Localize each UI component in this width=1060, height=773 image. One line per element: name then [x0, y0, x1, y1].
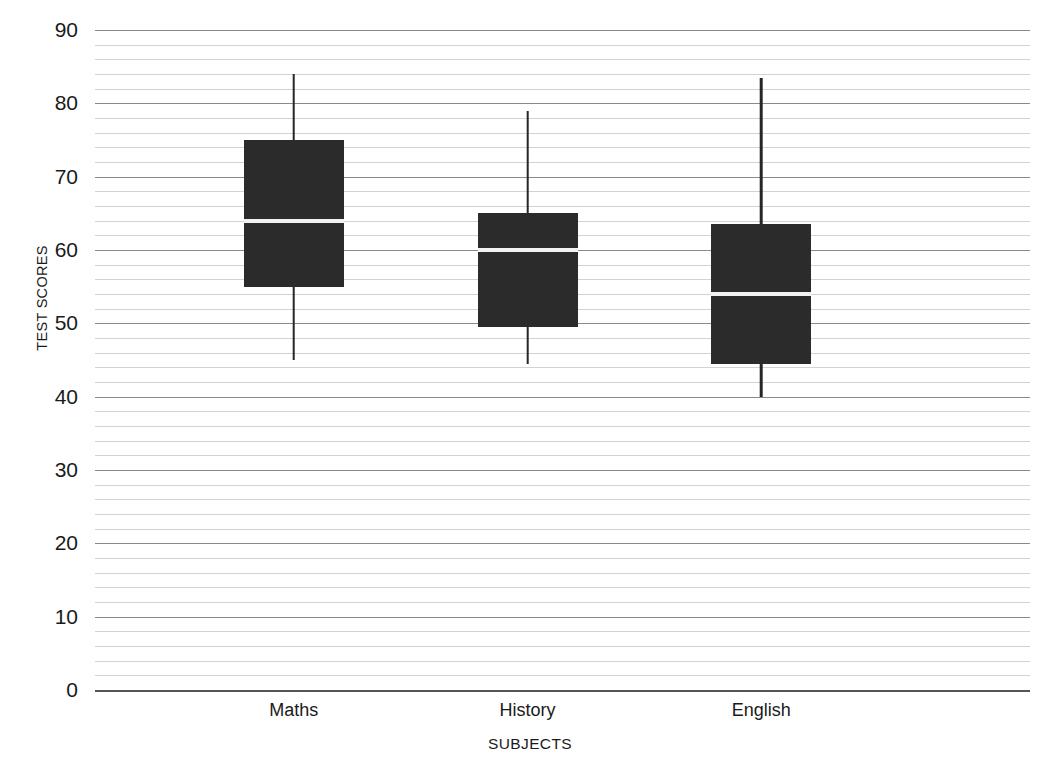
x-category-label-maths: Maths [269, 700, 318, 721]
plot-area [95, 30, 1030, 690]
y-tick-label: 50 [32, 312, 78, 333]
whisker-upper [526, 111, 529, 214]
whisker-lower [526, 327, 529, 364]
y-tick-label: 80 [32, 92, 78, 113]
box-series [95, 30, 1030, 690]
y-tick-label: 60 [32, 239, 78, 260]
gridline-major [95, 690, 1030, 692]
y-tick-label: 90 [32, 19, 78, 40]
x-axis-category-labels: MathsHistoryEnglish [0, 700, 1060, 730]
y-axis-tick-labels: 9080706050403020100 [14, 0, 78, 773]
median-line [478, 248, 578, 252]
box-plot-chart: TEST SCORES 9080706050403020100 MathsHis… [0, 0, 1060, 773]
median-line [244, 219, 344, 223]
whisker-upper [760, 78, 763, 225]
x-category-label-history: History [499, 700, 555, 721]
y-tick-label: 10 [32, 606, 78, 627]
box-body [244, 140, 344, 287]
y-tick-label: 70 [32, 166, 78, 187]
y-tick-label: 20 [32, 532, 78, 553]
box-body [478, 213, 578, 327]
y-tick-label: 40 [32, 386, 78, 407]
box-plot-maths[interactable] [244, 30, 344, 690]
whisker-lower [292, 287, 295, 360]
y-tick-label: 30 [32, 459, 78, 480]
x-axis-title: SUBJECTS [0, 735, 1060, 753]
x-category-label-english: English [732, 700, 791, 721]
y-tick-label: 0 [32, 679, 78, 700]
box-plot-history[interactable] [478, 30, 578, 690]
whisker-lower [760, 364, 763, 397]
whisker-upper [292, 74, 295, 140]
median-line [711, 292, 811, 296]
box-plot-english[interactable] [711, 30, 811, 690]
